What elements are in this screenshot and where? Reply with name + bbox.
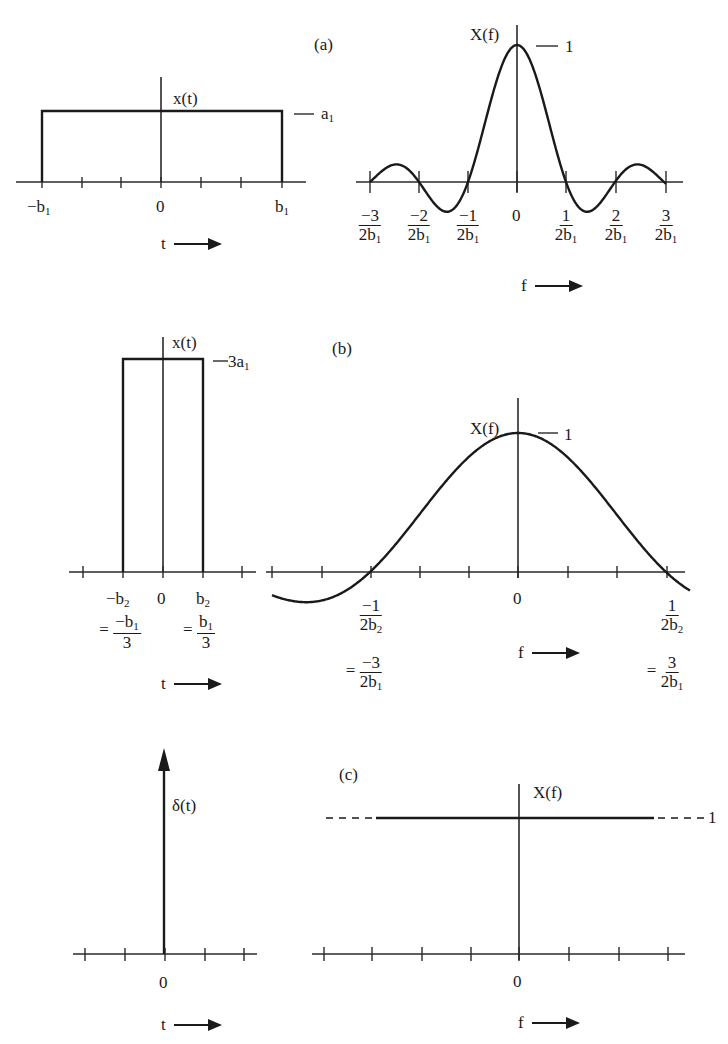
amplitude-label: a1 — [321, 105, 334, 124]
panel-label-b: (b) — [332, 340, 352, 357]
freq-tick-label: −12b1 — [457, 207, 480, 245]
level-value-label: 1 — [708, 809, 717, 826]
tick-label-zero: 0 — [512, 207, 521, 224]
tick-label-neg-1-over-2b2: −1 2b2 — [360, 597, 383, 635]
x-of-t-label: x(t) — [172, 334, 197, 351]
tick-label-zero: 0 — [513, 590, 522, 607]
amplitude-label: 3a1 — [228, 353, 250, 372]
panel-a-time-plot — [16, 77, 314, 188]
freq-tick-label: 32b1 — [655, 207, 678, 245]
freq-tick-label: −22b1 — [408, 207, 431, 245]
X-of-f-label: X(f) — [470, 420, 499, 437]
f-axis-label: f — [518, 643, 578, 663]
panel-label-a: (a) — [314, 36, 333, 53]
t-axis-label: t — [161, 234, 220, 254]
figure-canvas — [0, 0, 728, 1044]
peak-value-label: 1 — [564, 426, 573, 443]
x-of-t-label: x(t) — [173, 90, 198, 107]
panel-b-time-plot — [69, 337, 256, 578]
panel-c-time-plot — [73, 748, 257, 961]
tick-label-zero: 0 — [513, 973, 522, 990]
panel-a-freq-plot — [356, 25, 683, 212]
tick-label-neg-b1: −b1 — [27, 198, 51, 217]
equiv-b1-over-3: = b1 3 — [197, 613, 215, 651]
tick-label-b1: b1 — [275, 198, 289, 217]
tick-label-b2: b2 — [196, 590, 210, 609]
delta-of-t-label: δ(t) — [172, 797, 196, 814]
rect-pulse — [42, 111, 282, 182]
f-axis-label: f — [518, 1013, 578, 1033]
equiv-3-over-2b1: = 3 2b1 — [661, 654, 684, 692]
t-axis-label: t — [161, 674, 220, 694]
freq-tick-label: −32b1 — [359, 207, 382, 245]
sinc-curve — [272, 433, 690, 602]
tick-label-zero: 0 — [156, 198, 165, 215]
right-arrow-icon — [174, 683, 220, 685]
freq-tick-label: 12b1 — [555, 207, 578, 245]
equiv-neg-3-over-2b1: = −3 2b1 — [360, 654, 383, 692]
tick-label-zero: 0 — [157, 590, 166, 607]
right-arrow-icon — [532, 652, 578, 654]
t-axis-label: t — [161, 1015, 220, 1035]
tick-label-1-over-2b2: 1 2b2 — [661, 597, 684, 635]
right-arrow-icon — [174, 1024, 220, 1026]
peak-value-label: 1 — [565, 38, 574, 55]
right-arrow-icon — [535, 285, 581, 287]
impulse-arrowhead — [158, 748, 170, 771]
X-of-f-label: X(f) — [470, 26, 499, 43]
sinc-curve — [370, 45, 666, 212]
panel-label-c: (c) — [339, 766, 358, 783]
f-axis-label: f — [521, 276, 581, 296]
tick-label-neg-b2: −b2 — [106, 590, 130, 609]
freq-tick-label: 22b1 — [605, 207, 628, 245]
equiv-neg-b1-over-3: = −b1 3 — [113, 613, 141, 651]
panel-c-freq-plot — [312, 784, 705, 961]
right-arrow-icon — [174, 243, 220, 245]
right-arrow-icon — [532, 1022, 578, 1024]
X-of-f-label: X(f) — [533, 784, 562, 801]
tick-label-zero: 0 — [159, 974, 168, 991]
